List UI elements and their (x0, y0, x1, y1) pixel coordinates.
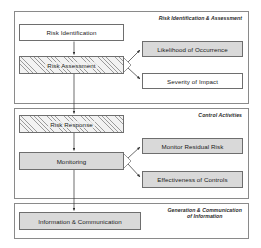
node-risk-response[interactable]: Risk Response (19, 115, 124, 133)
node-risk-identification[interactable]: Risk Identification (19, 24, 124, 41)
node-label-monitoring: Monitoring (55, 158, 89, 165)
node-severity-of-impact[interactable]: Severity of Impact (142, 73, 243, 89)
node-monitor-residual-risk[interactable]: Monitor Residual Risk (142, 138, 243, 154)
panel-title-control-activities: Control Activities (198, 112, 242, 118)
node-information-and-communication[interactable]: Information & Communication (19, 212, 141, 230)
node-label-likelihood-of-occurrence: Likelihood of Occurrence (155, 46, 229, 53)
node-label-effectiveness-of-controls: Effectiveness of Controls (155, 176, 229, 183)
node-label-information-and-communication: Information & Communication (36, 218, 124, 225)
node-label-severity-of-impact: Severity of Impact (165, 78, 220, 85)
node-label-risk-identification: Risk Identification (44, 29, 98, 36)
panel-title-generation-communication: Generation & Communication of Informatio… (167, 207, 242, 219)
node-risk-assessment[interactable]: Risk Assessment (19, 56, 124, 74)
node-label-risk-assessment: Risk Assessment (45, 62, 97, 69)
diagram-canvas: Risk Identification & Assessment Risk Id… (0, 0, 261, 248)
node-label-risk-response: Risk Response (48, 121, 95, 128)
node-monitoring[interactable]: Monitoring (19, 152, 124, 170)
node-likelihood-of-occurrence[interactable]: Likelihood of Occurrence (142, 41, 243, 57)
panel-title-assessment: Risk Identification & Assessment (159, 15, 242, 21)
node-label-monitor-residual-risk: Monitor Residual Risk (160, 143, 226, 150)
node-effectiveness-of-controls[interactable]: Effectiveness of Controls (142, 171, 243, 188)
